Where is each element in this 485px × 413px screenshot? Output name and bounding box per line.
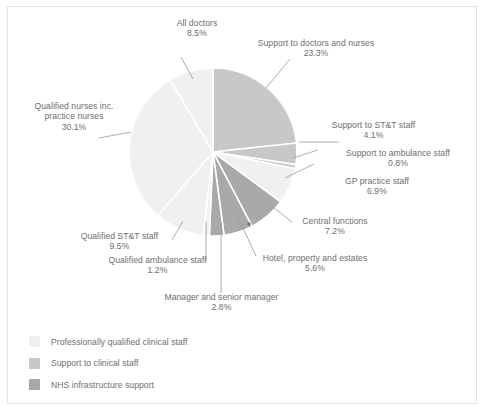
slice-value-gp-practice: 6.9% xyxy=(318,186,436,196)
slice-value-support-stt: 4.1% xyxy=(311,130,436,140)
legend-label-professionally-qualified: Professionally qualified clinical staff xyxy=(51,337,188,347)
slice-label-support-doctors-nurses: Support to doctors and nurses 23.3% xyxy=(232,38,400,59)
slice-label-qualified-nurses-line2: practice nurses xyxy=(20,111,128,121)
leader-support-doctors-nurses xyxy=(266,59,290,88)
slice-label-qualified-stt-text: Qualified ST&T staff xyxy=(81,231,159,241)
slice-label-qualified-ambulance-text: Qualified ambulance staff xyxy=(108,255,206,265)
slice-value-support-ambulance: 0.8% xyxy=(323,158,473,168)
slice-label-qualified-stt: Qualified ST&T staff 9.5% xyxy=(68,231,171,252)
slice-label-gp-practice-text: GP practice staff xyxy=(345,176,409,186)
slice-value-qualified-stt: 9.5% xyxy=(68,241,171,251)
slice-label-manager-senior-text: Manager and senior manager xyxy=(164,292,278,302)
pie-slices-group xyxy=(129,68,297,236)
slice-label-qualified-ambulance: Qualified ambulance staff 1.2% xyxy=(85,255,230,276)
slice-label-qualified-nurses: Qualified nurses inc. practice nurses 30… xyxy=(20,101,128,132)
slice-value-qualified-ambulance: 1.2% xyxy=(85,265,230,275)
slice-label-central-functions-text: Central functions xyxy=(302,216,367,226)
slice-label-support-doctors-nurses-text: Support to doctors and nurses xyxy=(258,38,375,48)
slice-label-all-doctors: All doctors 8.5% xyxy=(152,18,242,39)
slice-value-qualified-nurses: 30.1% xyxy=(20,122,128,132)
slice-label-support-stt: Support to ST&T staff 4.1% xyxy=(311,120,436,141)
pie-slice[interactable] xyxy=(213,68,297,152)
legend-item-professionally-qualified[interactable]: Professionally qualified clinical staff xyxy=(29,331,329,353)
slice-value-hotel-property: 5.6% xyxy=(241,263,389,273)
slice-value-central-functions: 7.2% xyxy=(280,226,390,236)
slice-label-gp-practice: GP practice staff 6.9% xyxy=(318,176,436,197)
slice-label-support-ambulance: Support to ambulance staff 0.8% xyxy=(323,148,473,169)
legend-swatch-support-to-clinical xyxy=(29,358,40,369)
chart-legend: Professionally qualified clinical staff … xyxy=(29,331,329,396)
slice-label-support-stt-text: Support to ST&T staff xyxy=(332,120,415,130)
legend-swatch-nhs-infrastructure xyxy=(29,379,40,390)
leader-qualified-nurses xyxy=(99,132,131,138)
slice-value-all-doctors: 8.5% xyxy=(152,28,242,38)
slice-value-support-doctors-nurses: 23.3% xyxy=(232,48,400,58)
legend-item-support-to-clinical[interactable]: Support to clinical staff xyxy=(29,353,329,375)
legend-label-nhs-infrastructure: NHS infrastructure support xyxy=(51,380,154,390)
callout-dot-marker xyxy=(247,222,250,225)
slice-label-support-ambulance-text: Support to ambulance staff xyxy=(346,148,450,158)
slice-label-qualified-nurses-line1: Qualified nurses inc. xyxy=(35,101,114,111)
slice-label-manager-senior: Manager and senior manager 2.8% xyxy=(150,292,293,313)
slice-label-all-doctors-text: All doctors xyxy=(177,18,218,28)
legend-item-nhs-infrastructure[interactable]: NHS infrastructure support xyxy=(29,374,329,396)
slice-label-hotel-property-text: Hotel, property and estates xyxy=(263,253,368,263)
pie-chart-figure: All doctors 8.5% Support to doctors and … xyxy=(0,0,485,413)
slice-value-manager-senior: 2.8% xyxy=(150,302,293,312)
legend-swatch-professionally-qualified xyxy=(29,336,40,347)
slice-label-central-functions: Central functions 7.2% xyxy=(280,216,390,237)
slice-label-hotel-property: Hotel, property and estates 5.6% xyxy=(241,253,389,274)
legend-label-support-to-clinical: Support to clinical staff xyxy=(51,358,139,368)
